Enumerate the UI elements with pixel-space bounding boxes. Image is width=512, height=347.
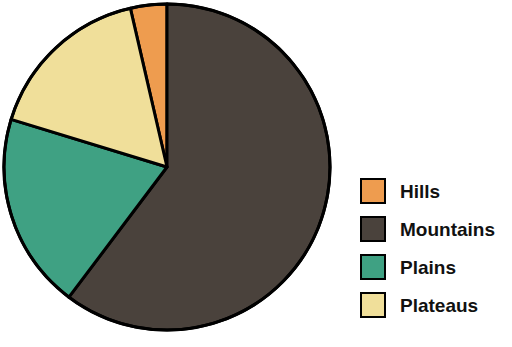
legend-swatch-plains [360,254,386,280]
legend-label-mountains: Mountains [400,220,495,239]
legend-swatch-mountains [360,216,386,242]
legend-swatch-plateaus [360,292,386,318]
legend-swatch-hills [360,178,386,204]
legend-label-plains: Plains [400,258,456,277]
legend-item-plains[interactable]: Plains [360,248,512,286]
legend-item-hills[interactable]: Hills [360,172,512,210]
chart-legend: Hills Mountains Plains Plateaus [360,172,512,324]
pie-slice-group [4,4,330,330]
legend-item-mountains[interactable]: Mountains [360,210,512,248]
legend-label-hills: Hills [400,182,440,201]
legend-label-plateaus: Plateaus [400,296,478,315]
pie-chart-figure: Hills Mountains Plains Plateaus [0,0,512,347]
legend-item-plateaus[interactable]: Plateaus [360,286,512,324]
